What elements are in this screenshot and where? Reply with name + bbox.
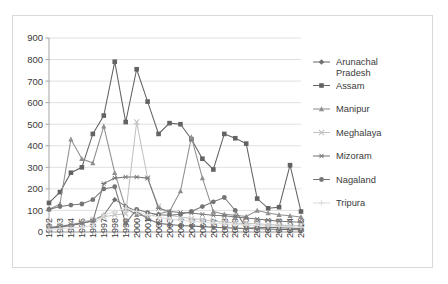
data-point [112,184,117,189]
data-point [319,177,324,182]
series-meghalaya [46,119,303,229]
data-point [222,132,227,137]
legend-label-cont: Pradesh [336,68,371,78]
data-point [277,205,282,210]
data-point [79,156,84,161]
legend-label: Tripura [336,198,366,208]
data-point [47,207,52,212]
data-point [47,201,52,206]
data-point [178,122,183,127]
legend-label: Assam [336,81,365,91]
data-point [319,83,324,88]
data-point [255,196,260,201]
data-point [244,141,249,146]
data-point [112,170,117,175]
data-point [145,99,150,104]
data-point [200,156,205,161]
data-point [134,175,139,179]
chart-plot-area: 0100200300400500600700800900199219931994… [13,16,434,269]
data-point [288,163,293,168]
legend-label: Mizoram [336,151,372,161]
series-assam [47,59,304,213]
data-point [266,206,271,211]
data-point [134,67,139,72]
legend-label: Nagaland [336,175,376,185]
data-point [90,197,95,202]
y-tick-label: 100 [27,205,43,216]
x-tick-label: 1997 [99,218,109,238]
legend-label: Meghalaya [336,128,382,138]
data-point [69,203,74,208]
y-gridlines: 0100200300400500600700800900 [27,32,301,237]
data-point [200,212,205,216]
data-point [233,136,238,141]
data-point [123,175,128,179]
data-point [80,165,85,170]
y-tick-label: 0 [38,226,43,237]
data-point [68,137,73,142]
data-point [211,167,216,172]
data-point [69,170,74,175]
y-tick-label: 800 [27,54,43,65]
data-point [91,132,96,137]
data-point [299,209,304,214]
data-point [319,154,324,158]
data-point [178,212,183,217]
data-point [112,59,117,64]
line-chart: 0100200300400500600700800900199219931994… [13,16,434,269]
data-point [79,202,84,207]
y-tick-label: 900 [27,32,43,43]
y-tick-label: 400 [27,140,43,151]
x-tick-label: 2000 [132,218,142,238]
data-point [156,132,161,137]
y-tick-label: 700 [27,76,43,87]
data-point [200,175,205,180]
data-point [101,186,106,191]
data-point [167,121,172,126]
data-point [101,113,106,118]
data-point [112,176,117,180]
data-point [319,59,324,64]
legend-label: Manipur [336,104,370,114]
legend-label: Arunachal [336,57,378,67]
y-tick-label: 200 [27,183,43,194]
x-tick-label: 1998 [110,218,120,238]
data-point [233,208,238,213]
x-tick-label: 1999 [121,218,131,238]
data-point [200,204,205,209]
y-tick-label: 600 [27,97,43,108]
data-point [58,204,63,209]
data-point [211,199,216,204]
data-point [189,209,194,214]
data-point [123,221,128,226]
data-point [123,120,128,125]
y-tick-label: 500 [27,119,43,130]
data-point [222,195,227,200]
data-point [319,200,325,206]
y-tick-label: 300 [27,162,43,173]
series-manipur [46,124,303,220]
chart-container: 0100200300400500600700800900199219931994… [12,15,433,268]
legend: ArunachalPradeshAssamManipurMeghalayaMiz… [313,57,382,208]
